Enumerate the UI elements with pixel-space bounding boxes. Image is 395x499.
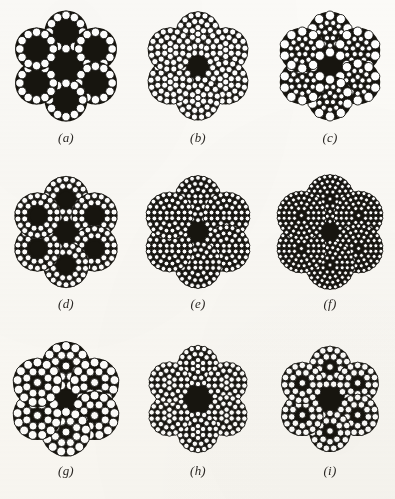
figure-caption-g: (g)	[58, 463, 74, 479]
figure-cell-g: (g)	[0, 333, 132, 499]
cropped-page-text	[0, 491, 395, 499]
figure-cell-b: (b)	[132, 0, 264, 166]
wire-rope-cross-section-i	[264, 337, 395, 465]
wire-rope-cross-section-e	[132, 170, 264, 298]
wire-rope-cross-section-g	[0, 337, 132, 465]
figure-cell-d: (d)	[0, 166, 132, 332]
wire-rope-cross-section-d	[0, 170, 132, 298]
wire-rope-cross-section-h	[132, 337, 264, 465]
figure-cell-a: (a)	[0, 0, 132, 166]
figure-cell-e: (e)	[132, 166, 264, 332]
figure-caption-a: (a)	[58, 130, 74, 146]
figure-caption-e: (e)	[190, 296, 205, 312]
wire-rope-cross-section-b	[132, 4, 264, 132]
figure-cell-c: (c)	[264, 0, 395, 166]
figure-grid: (a) (b) (c) (d) (e) (f) (g) (h)	[0, 0, 395, 499]
wire-rope-cross-section-a	[0, 4, 132, 132]
wire-rope-figure-plate: (a) (b) (c) (d) (e) (f) (g) (h)	[0, 0, 395, 499]
figure-caption-i: (i)	[324, 463, 337, 479]
figure-caption-f: (f)	[324, 296, 337, 312]
figure-caption-b: (b)	[190, 130, 206, 146]
figure-caption-c: (c)	[322, 130, 337, 146]
figure-cell-h: (h)	[132, 333, 264, 499]
figure-cell-i: (i)	[264, 333, 395, 499]
wire-rope-cross-section-c	[264, 4, 395, 132]
figure-caption-d: (d)	[58, 296, 74, 312]
figure-cell-f: (f)	[264, 166, 395, 332]
figure-caption-h: (h)	[190, 463, 206, 479]
wire-rope-cross-section-f	[264, 170, 395, 298]
